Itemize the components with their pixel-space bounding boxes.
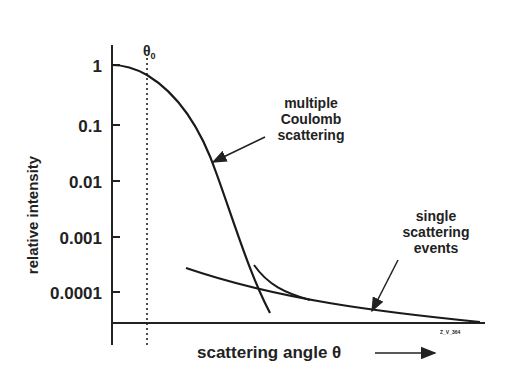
svg-text:0.0001: 0.0001 xyxy=(50,284,102,303)
theta0-label: θ0 xyxy=(143,43,156,61)
svg-text:single: single xyxy=(416,208,457,224)
svg-text:events: events xyxy=(414,240,459,256)
single-scattering-curve xyxy=(186,268,480,322)
svg-text:scattering: scattering xyxy=(403,224,470,240)
annotation-single: single scattering events xyxy=(403,208,470,256)
y-ticks xyxy=(112,65,120,292)
multiple-scattering-curve xyxy=(112,65,270,313)
arrow-single xyxy=(372,260,398,311)
svg-text:0.1: 0.1 xyxy=(78,117,102,136)
y-tick-labels: 1 0.1 0.01 0.001 0.0001 xyxy=(50,57,102,303)
svg-text:scattering: scattering xyxy=(278,127,345,143)
svg-text:1: 1 xyxy=(93,57,102,76)
annotation-multiple: multiple Coulomb scattering xyxy=(278,95,345,143)
chart: 1 0.1 0.01 0.001 0.0001 relative intensi… xyxy=(0,0,506,386)
y-axis-label: relative intensity xyxy=(24,155,41,274)
arrow-multiple xyxy=(213,137,265,162)
svg-text:0.01: 0.01 xyxy=(69,173,102,192)
svg-text:Coulomb: Coulomb xyxy=(281,111,342,127)
svg-text:0.001: 0.001 xyxy=(59,229,102,248)
x-axis-label: scattering angle θ xyxy=(197,343,341,362)
svg-text:multiple: multiple xyxy=(284,95,338,111)
corner-code: Z_V_364 xyxy=(440,329,461,335)
